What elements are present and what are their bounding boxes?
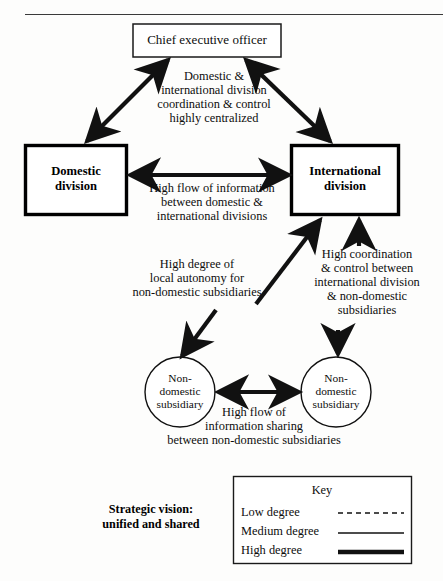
key-title: Key xyxy=(233,483,411,498)
node-ceo-label: Chief executive officer xyxy=(133,32,281,48)
diagram-page: Chief executive officer Domestic divisio… xyxy=(0,0,443,581)
strategic-vision-label: Strategic vision: unified and shared xyxy=(78,502,224,531)
annotation-subsidiary-flow: High flow of information sharing between… xyxy=(132,406,376,448)
node-international-label: International division xyxy=(291,164,399,194)
node-domestic-label: Domestic division xyxy=(25,164,127,194)
annotation-ceo-coordination: Domestic & international division coordi… xyxy=(128,70,300,126)
key-item-high-degree: High degree xyxy=(241,543,341,558)
edge-to-subsidiary-left xyxy=(182,310,216,356)
key-item-medium-degree: Medium degree xyxy=(241,524,341,539)
annotation-international-coordination: High coordination & control between inte… xyxy=(297,248,437,317)
annotation-division-flow: High flow of information between domesti… xyxy=(126,182,298,224)
key-item-low-degree: Low degree xyxy=(241,505,341,520)
annotation-local-autonomy: High degree of local autonomy for non-do… xyxy=(114,258,280,300)
